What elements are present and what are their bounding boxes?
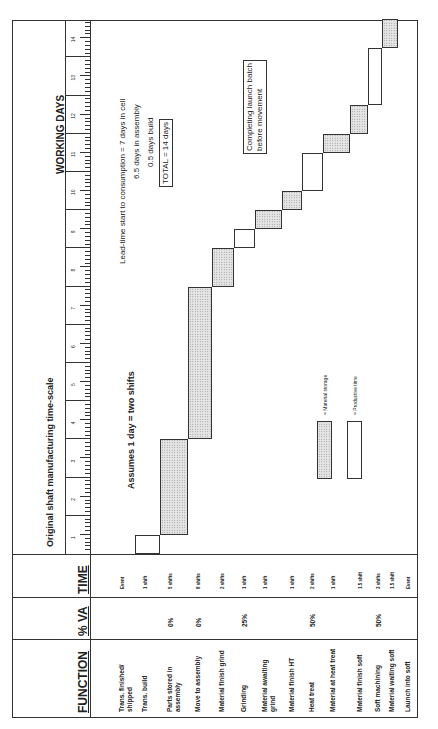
axis-tick (85, 236, 90, 237)
axis-tick (85, 205, 90, 206)
day-label: 8 (70, 269, 76, 272)
header-function: FUNCTION (76, 651, 90, 713)
axis-tick (85, 121, 90, 122)
day-label: 13 (70, 75, 76, 81)
axis-tick (85, 354, 90, 355)
day-divider (65, 438, 90, 439)
axis-tick (85, 202, 90, 203)
axis-tick (85, 160, 90, 161)
va-value: 25% (241, 614, 248, 627)
axis-tick (85, 263, 90, 264)
assumption-note: Assumes 1 day = two shifts (126, 371, 136, 489)
axis-tick (80, 343, 90, 344)
axis-tick (80, 534, 90, 535)
day-divider (65, 209, 90, 210)
function-label: Material finish soft (356, 642, 364, 712)
axis-tick (85, 194, 90, 195)
axis-tick (85, 64, 90, 65)
axis-tick (85, 446, 90, 447)
axis-tick (85, 431, 90, 432)
axis-tick (85, 412, 90, 413)
axis-tick (85, 102, 90, 103)
gantt-bar-productive (135, 535, 160, 554)
gantt-bar-storage (350, 105, 368, 134)
axis-tick (85, 542, 90, 543)
legend-storage-label: = Material storage (322, 375, 328, 415)
time-value: Event (120, 577, 125, 589)
axis-tick (85, 328, 90, 329)
axis-tick (85, 320, 90, 321)
time-value: 1 shift (331, 576, 336, 589)
axis-tick (85, 549, 90, 550)
axis-tick (85, 316, 90, 317)
axis-tick (80, 419, 90, 420)
axis-tick (85, 278, 90, 279)
axis-tick (85, 79, 90, 80)
axis-tick (85, 545, 90, 546)
day-label: 1 (70, 536, 76, 539)
axis-tick (85, 175, 90, 176)
total-note: TOTAL = 14 days (159, 119, 173, 187)
axis-tick (85, 30, 90, 31)
axis-tick (85, 49, 90, 50)
axis-tick (85, 404, 90, 405)
divider (90, 20, 91, 718)
va-value: 0% (195, 618, 202, 627)
axis-tick (85, 182, 90, 183)
axis-tick (85, 442, 90, 443)
axis-tick (85, 309, 90, 310)
function-label: Material finish HT (288, 642, 296, 712)
time-value: 1 shift (290, 576, 295, 589)
axis-tick (85, 98, 90, 99)
batch-note-line: Completing launch batch (245, 63, 255, 151)
axis-tick (85, 163, 90, 164)
axis-tick (85, 221, 90, 222)
axis-tick (80, 267, 90, 268)
axis-tick (85, 511, 90, 512)
axis-tick (85, 389, 90, 390)
day-divider (65, 362, 90, 363)
chart-title: Original shaft manufacturing time-scale (45, 377, 55, 547)
axis-tick (85, 106, 90, 107)
axis-tick (85, 293, 90, 294)
axis-tick (85, 156, 90, 157)
axis-tick (85, 538, 90, 539)
axis-tick (85, 335, 90, 336)
axis-tick (85, 408, 90, 409)
axis-tick (85, 301, 90, 302)
function-label: Trans. finished/ shipped (118, 642, 133, 712)
axis-tick (85, 351, 90, 352)
batch-note: Completing launch batch before movement (243, 60, 267, 154)
axis-tick (80, 114, 90, 115)
axis-tick (85, 488, 90, 489)
axis-tick (80, 152, 90, 153)
day-label: 9 (70, 231, 76, 234)
axis-tick (85, 91, 90, 92)
day-label: 12 (70, 113, 76, 119)
build-note: 0.5 days build (146, 118, 155, 167)
axis-tick (85, 274, 90, 275)
day-divider (65, 56, 90, 57)
axis-tick (85, 450, 90, 451)
axis-tick (85, 110, 90, 111)
axis-tick (85, 198, 90, 199)
divider (12, 554, 418, 555)
time-value: 1 shift (263, 576, 268, 589)
day-label: 10 (70, 190, 76, 196)
axis-tick (85, 526, 90, 527)
day-label: 5 (70, 383, 76, 386)
gantt-bar-productive (368, 48, 382, 105)
axis-tick (80, 76, 90, 77)
gantt-bar-storage (160, 439, 188, 535)
function-label: Material awaiting grind (261, 642, 276, 712)
axis-tick (85, 530, 90, 531)
axis-tick (85, 224, 90, 225)
axis-tick (85, 87, 90, 88)
axis-tick (85, 213, 90, 214)
function-label: Material at heat treat (329, 642, 337, 712)
day-divider (65, 324, 90, 325)
day-label: 11 (70, 152, 76, 157)
axis-tick (85, 492, 90, 493)
gantt-bar-storage (323, 134, 350, 153)
axis-tick (85, 186, 90, 187)
